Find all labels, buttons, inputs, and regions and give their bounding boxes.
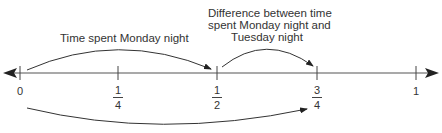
label-difference-line-1: Difference between time <box>208 7 326 19</box>
numerator: 3 <box>310 84 324 96</box>
jump-arc-below <box>27 108 307 124</box>
tick-label-1-2: 1 2 <box>210 84 224 111</box>
fraction-bar <box>212 97 222 98</box>
denominator: 2 <box>210 99 224 111</box>
denominator: 4 <box>111 99 125 111</box>
denominator: 4 <box>310 99 324 111</box>
tick-label-1-4: 1 4 <box>111 84 125 111</box>
numerator: 1 <box>210 84 224 96</box>
fraction-bar <box>113 97 123 98</box>
label-difference-line-2: spent Monday night and <box>208 19 326 31</box>
jump-arc-difference <box>222 49 313 67</box>
tick-label-1: 1 <box>409 85 423 97</box>
numerator: 1 <box>111 84 125 96</box>
tick-label-3-4: 3 4 <box>310 84 324 111</box>
jump-arc-monday <box>27 50 211 70</box>
label-difference-line-3: Tuesday night <box>208 31 326 43</box>
label-time-spent-monday: Time spent Monday night <box>60 32 178 44</box>
fraction-bar <box>312 97 322 98</box>
tick-label-0: 0 <box>13 85 27 97</box>
